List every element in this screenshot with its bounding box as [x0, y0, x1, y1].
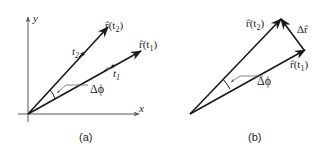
- label-delta-phi-a: Δϕ: [90, 82, 104, 96]
- vector-r-t2-b: [190, 19, 281, 114]
- angle-arc-b: [223, 79, 230, 89]
- caption-a: (a): [79, 131, 92, 143]
- label-t2: t2: [72, 45, 79, 60]
- angle-arc-a: [50, 90, 55, 99]
- panel-a: y x r̂(t2) r̂(t1) t2 t1 Δϕ (a): [18, 12, 157, 143]
- vector-r-t2: [28, 27, 108, 114]
- diagram-canvas: y x r̂(t2) r̂(t1) t2 t1 Δϕ (a): [0, 0, 326, 151]
- label-r-hat-t1-b: r̂(t1): [290, 58, 308, 73]
- label-r-hat-t2-a: r̂(t2): [105, 19, 123, 34]
- label-delta-r-hat-b: Δr̂: [297, 23, 309, 35]
- label-t1: t1: [113, 67, 120, 82]
- point-t2: [81, 52, 84, 55]
- panel-b: r̂(t2) Δr̂ r̂(t1) Δϕ (b): [190, 17, 309, 143]
- vector-r-t1: [28, 51, 141, 114]
- y-axis-label: y: [32, 12, 38, 24]
- label-r-hat-t2-b: r̂(t2): [246, 17, 264, 32]
- label-r-hat-t1-a: r̂(t1): [139, 38, 157, 53]
- label-delta-phi-b: Δϕ: [257, 74, 271, 88]
- vector-r-t1-b: [190, 50, 305, 114]
- x-axis-label: x: [138, 102, 144, 114]
- caption-b: (b): [248, 131, 261, 143]
